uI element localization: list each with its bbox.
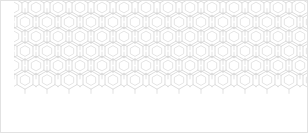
hexagon-lattice-graphic (14, 0, 308, 133)
pattern-swatch-canvas (0, 0, 308, 133)
pattern-plate (0, 0, 308, 133)
